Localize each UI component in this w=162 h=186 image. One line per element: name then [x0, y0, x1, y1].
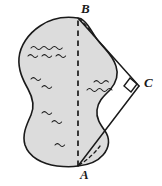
right-angle-marker-c: [124, 78, 137, 92]
figure-container: B A C: [0, 0, 162, 186]
lake-diagram-svg: [0, 0, 162, 186]
lake-region: [19, 17, 117, 166]
vertex-label-c: C: [144, 76, 153, 89]
vertex-label-b: B: [81, 2, 90, 15]
vertex-label-a: A: [80, 168, 89, 181]
